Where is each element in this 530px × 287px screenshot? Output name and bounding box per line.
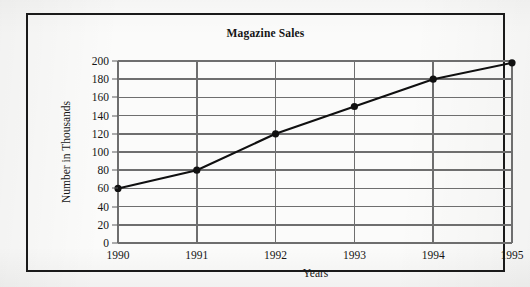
y-axis-tick-label: 120 xyxy=(92,128,109,140)
scanned-page: Magazine Sales Number in Thousands 20018… xyxy=(0,0,530,287)
x-axis-title: Years xyxy=(118,267,513,279)
chart-title: Magazine Sales xyxy=(28,27,503,39)
y-axis-tick-label: 80 xyxy=(98,164,110,176)
line-series-magazine-sales xyxy=(118,61,512,243)
y-axis-tick-label: 60 xyxy=(98,182,110,194)
y-axis-tick-label: 200 xyxy=(92,55,109,67)
y-axis-tick-label: 20 xyxy=(98,219,110,231)
y-axis-tick-label: 0 xyxy=(103,237,109,249)
y-axis-tick-mark xyxy=(112,79,118,80)
y-axis-tick-label: 160 xyxy=(92,91,109,103)
x-axis-tick-label: 1990 xyxy=(107,249,130,261)
chart-figure-frame: Magazine Sales Number in Thousands 20018… xyxy=(26,13,505,272)
y-axis-tick-mark xyxy=(112,61,118,62)
x-axis-tick-label: 1991 xyxy=(185,249,208,261)
x-axis-tick-label: 1992 xyxy=(264,249,287,261)
y-axis-tick-mark xyxy=(112,243,118,244)
y-axis-tick-mark xyxy=(112,115,118,116)
y-axis-tick-mark xyxy=(112,133,118,134)
y-axis-tick-label: 140 xyxy=(92,110,109,122)
x-axis-tick-label: 1993 xyxy=(343,249,366,261)
y-axis-tick-label: 180 xyxy=(92,73,109,85)
y-axis-title: Number in Thousands xyxy=(58,61,74,243)
y-axis-tick-label: 40 xyxy=(98,201,110,213)
y-axis-tick-mark xyxy=(112,188,118,189)
y-axis-tick-mark xyxy=(112,152,118,153)
y-axis-tick-mark xyxy=(112,206,118,207)
plot-area: 2001801601401201008060402001990199119921… xyxy=(118,61,512,243)
x-axis-tick-label: 1995 xyxy=(501,249,524,261)
y-axis-tick-mark xyxy=(112,97,118,98)
y-axis-tick-mark xyxy=(112,170,118,171)
y-axis-tick-mark xyxy=(112,224,118,225)
y-axis-tick-label: 100 xyxy=(92,146,109,158)
x-axis-tick-label: 1994 xyxy=(422,249,445,261)
